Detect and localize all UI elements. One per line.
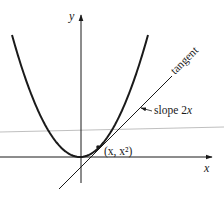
y-axis-label: y [68,9,75,23]
tangent-label: tangent [168,43,202,77]
point-label: (x, x²) [104,145,133,158]
parabola-tangent-diagram: y x tangent slope 2x (x, x²) [0,0,224,197]
slope-label-var: x [186,104,193,116]
slope-pointer-arrow [141,108,152,111]
parabola-curve [12,35,148,157]
slope-label-prefix: slope 2 [154,104,187,117]
tangent-line [59,76,172,189]
tangent-point [96,145,100,149]
x-axis-label: x [203,161,210,175]
slope-label: slope 2x [154,104,193,117]
